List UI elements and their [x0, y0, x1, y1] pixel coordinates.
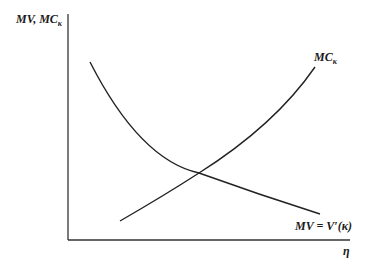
- mv-curve: [90, 62, 320, 214]
- mc-curve-label: MCκ: [314, 50, 337, 65]
- mc-curve: [120, 67, 315, 221]
- mv-curve-label: MV = V′(κ): [295, 219, 352, 234]
- y-axis-label: MV, MCκ: [16, 12, 62, 27]
- x-axis-label: η: [343, 244, 350, 259]
